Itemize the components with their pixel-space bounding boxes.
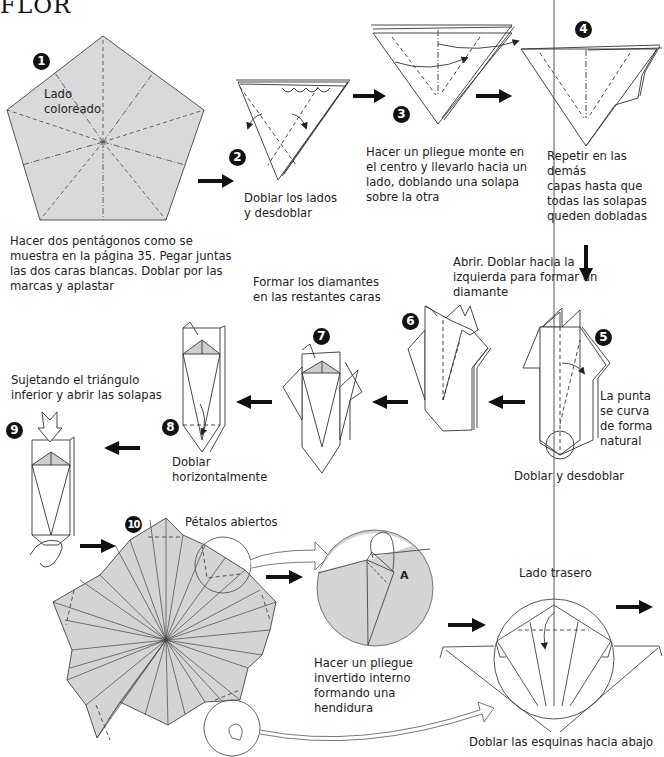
colored-side-label: Lado coloreado <box>44 87 101 117</box>
step2-triangle <box>236 80 350 180</box>
step4-caption: Repetir en las demás capas hasta que tod… <box>547 149 664 224</box>
step6-diamond <box>408 305 491 431</box>
step4-triangle <box>521 45 662 146</box>
step8-caption: Doblar horizontalmente <box>172 455 267 485</box>
step-number-3: 3 <box>393 106 410 123</box>
origami-flower-diagram: FLOR <box>0 0 664 757</box>
step3-caption: Hacer un pliegue monte en el centro y ll… <box>366 145 527 205</box>
step6-caption: Abrir. Doblar hacia la izquierda para fo… <box>453 255 597 300</box>
step-number-4: 4 <box>575 21 592 38</box>
step-number-6: 6 <box>402 313 419 330</box>
step7-diamond <box>283 344 362 473</box>
point-a-label: A <box>400 569 409 582</box>
step-number-5: 5 <box>595 329 612 346</box>
step-number-10: 10 <box>125 516 142 533</box>
detail-inside-reverse-fold <box>317 530 433 646</box>
step5-caption: Doblar y desdoblar <box>514 469 624 484</box>
open-petals-label: Pétalos abiertos <box>185 515 278 530</box>
back-side-caption: Doblar las esquinas hacia abajo <box>469 735 653 750</box>
step-number-2: 2 <box>229 149 246 166</box>
step-number-8: 8 <box>162 419 179 436</box>
step9-caption: Sujetando el triángulo inferior y abrir … <box>11 373 162 403</box>
step2-caption: Doblar los lados y desdoblar <box>244 191 337 221</box>
step9-column <box>30 412 74 567</box>
step7-caption: Formar los diamantes en las restantes ca… <box>253 275 381 305</box>
step8-column <box>183 322 225 452</box>
step5-note: La punta se curva de forma natural <box>600 389 652 449</box>
step10-flower <box>53 518 276 756</box>
step-number-7: 7 <box>313 328 330 345</box>
step-number-9: 9 <box>6 422 23 439</box>
inside-reverse-fold-caption: Hacer un pliegue invertido interno forma… <box>314 656 413 716</box>
back-side-label: Lado trasero <box>519 566 592 581</box>
step1-caption: Hacer dos pentágonos como se muestra en … <box>10 234 232 294</box>
step3-triangle <box>371 25 518 124</box>
step-number-1: 1 <box>33 53 50 70</box>
